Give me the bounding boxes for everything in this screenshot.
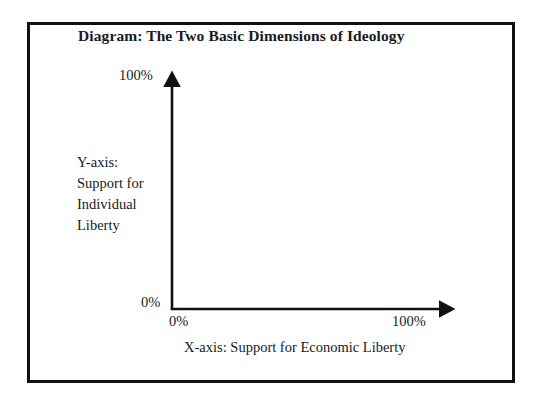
y-axis-caption-line: Individual (77, 194, 143, 215)
x-axis-max-label: 100% (392, 313, 426, 329)
x-axis-min-label: 0% (169, 313, 188, 329)
figure-title: Diagram: The Two Basic Dimensions of Ide… (78, 26, 405, 46)
y-axis-min-label: 0% (141, 294, 160, 310)
y-axis-max-label: 100% (119, 67, 153, 83)
y-axis-caption-line: Y-axis: (77, 152, 143, 173)
y-axis-caption-line: Liberty (77, 215, 143, 236)
x-axis-caption: X-axis: Support for Economic Liberty (184, 338, 405, 356)
y-axis-caption-line: Support for (77, 173, 143, 194)
y-axis-caption: Y-axis: Support for Individual Liberty (77, 152, 143, 236)
